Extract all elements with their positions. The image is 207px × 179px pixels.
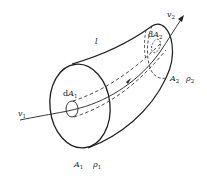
outlet-area-label: A2	[169, 74, 179, 84]
inlet-cross-section	[46, 61, 114, 151]
tube-label: l	[95, 37, 98, 46]
outlet-element-marker	[145, 30, 147, 60]
outlet-density-label: ρ2	[185, 74, 194, 84]
inlet-area-label: A1	[73, 160, 83, 170]
streamline-end-arrow-icon	[178, 15, 184, 22]
outlet-velocity-label: v2	[167, 10, 175, 20]
outlet-element-area-label: dA2	[148, 30, 162, 40]
tube-top-edge	[72, 26, 152, 64]
inlet-velocity-label: v1	[18, 109, 26, 119]
stream-tube-diagram: l v1 v2 dA1 dA2 A2 ρ2 A1 ρ1	[0, 0, 207, 179]
inlet-density-label: ρ1	[92, 160, 101, 170]
